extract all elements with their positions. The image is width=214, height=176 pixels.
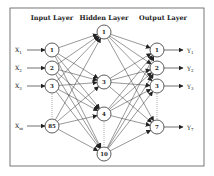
node-label: 7: [155, 124, 159, 130]
connection-edge: [110, 54, 151, 79]
connection-edge: [109, 37, 152, 81]
layer-titles: Input LayerHidden LayerOutput Layer: [31, 14, 188, 22]
layer-title-output: Output Layer: [139, 14, 188, 22]
connection-edge: [58, 129, 98, 150]
neural-network-diagram: Input LayerHidden LayerOutput Layer X1X2…: [0, 0, 214, 176]
node-label: 3: [102, 79, 106, 85]
input-label: Xm: [15, 122, 23, 131]
connection-edge: [110, 36, 151, 64]
connection-edge: [111, 116, 150, 126]
output-label: Y3: [186, 83, 194, 92]
node-label: 1: [50, 47, 54, 53]
connection-edge: [108, 55, 152, 108]
node-label: 2: [155, 65, 159, 71]
connection-edge: [111, 34, 151, 47]
node-label: 3: [155, 83, 159, 89]
node-label: 4: [102, 111, 106, 117]
node-label: 85: [48, 123, 56, 129]
connection-edge: [55, 38, 100, 120]
connection-edge: [110, 130, 151, 151]
connection-edge: [58, 54, 98, 79]
output-label: Y7: [186, 124, 194, 133]
connection-edge: [108, 74, 154, 148]
output-label: Y1: [186, 47, 194, 56]
connection-edge: [59, 83, 97, 86]
layer-title-hidden: Hidden Layer: [80, 14, 130, 22]
output-label: Y2: [186, 65, 194, 74]
input-label: X3: [15, 82, 22, 91]
input-label: X1: [15, 46, 22, 55]
node-label: 3: [50, 83, 54, 89]
node-label: 1: [155, 47, 159, 53]
connection-edge: [111, 83, 150, 86]
node-label: 10: [100, 151, 108, 157]
connection-edge: [59, 116, 97, 125]
input-label: X2: [15, 64, 22, 73]
connection-edge: [59, 34, 98, 47]
nodes: 12385134101237: [45, 25, 164, 161]
connection-edge: [58, 36, 98, 64]
node-label: 2: [50, 65, 54, 71]
connection-edge: [57, 37, 99, 81]
layer-title-input: Input Layer: [31, 14, 74, 22]
node-label: 1: [102, 29, 106, 35]
connections: [55, 34, 154, 151]
connection-edge: [109, 73, 151, 110]
